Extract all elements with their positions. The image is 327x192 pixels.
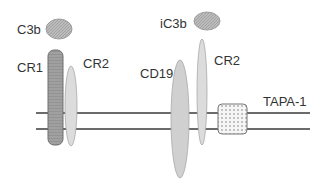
ic3b-ligand xyxy=(194,12,220,30)
receptor-diagram: C3b CR1 CR2 iC3b CD19 CR2 TAPA-1 xyxy=(0,0,327,192)
label-cr2-left: CR2 xyxy=(83,56,109,71)
c3b-ligand xyxy=(46,19,72,39)
label-cr1: CR1 xyxy=(17,60,43,75)
cr2-receptor-right xyxy=(197,39,207,145)
label-tapa1: TAPA-1 xyxy=(263,94,307,109)
label-cr2-right: CR2 xyxy=(214,53,240,68)
cr1-receptor xyxy=(48,50,63,145)
label-c3b: C3b xyxy=(17,22,41,37)
tapa1-protein xyxy=(218,104,247,134)
label-ic3b: iC3b xyxy=(160,16,187,31)
cr2-receptor-left xyxy=(65,66,77,146)
label-cd19: CD19 xyxy=(140,66,173,81)
cd19-receptor xyxy=(171,60,189,178)
